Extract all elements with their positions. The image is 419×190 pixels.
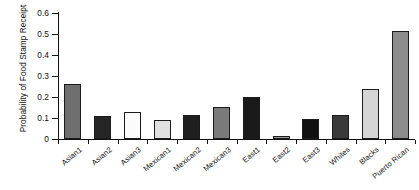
bar bbox=[183, 115, 200, 139]
x-axis-tick-label: East1 bbox=[241, 145, 262, 165]
x-axis-tick-label: Blacks bbox=[358, 145, 381, 167]
x-axis-tick bbox=[385, 140, 386, 144]
bar bbox=[332, 115, 349, 139]
x-axis-tick bbox=[118, 140, 119, 144]
y-axis-tick-label: 0.6 bbox=[37, 8, 49, 18]
bars-layer bbox=[58, 13, 415, 139]
bar bbox=[213, 107, 230, 139]
bar bbox=[124, 112, 141, 139]
x-axis-tick-label: Mexican2 bbox=[171, 145, 202, 173]
x-axis-tick bbox=[296, 140, 297, 144]
y-axis-title: Probability of Food Stamp Receipt bbox=[19, 0, 28, 144]
bar bbox=[64, 84, 81, 139]
y-axis-tick-label: 0.2 bbox=[37, 92, 49, 102]
x-axis-tick-label: Mexican1 bbox=[142, 145, 173, 173]
x-axis-tick-label: East2 bbox=[271, 145, 292, 165]
x-axis-tick bbox=[58, 140, 59, 144]
bar-chart-figure: Probability of Food Stamp Receipt 00.10.… bbox=[0, 0, 419, 190]
x-axis-tick-label: Whites bbox=[327, 145, 351, 167]
x-axis-tick-label: Asian2 bbox=[89, 145, 113, 167]
x-axis-tick-label: Asian3 bbox=[119, 145, 143, 167]
bar bbox=[94, 116, 111, 139]
y-axis-tick-label: 0.4 bbox=[37, 50, 49, 60]
y-axis-tick-label: 0.3 bbox=[37, 71, 49, 81]
x-axis-tick bbox=[88, 140, 89, 144]
x-axis-tick bbox=[177, 140, 178, 144]
bar bbox=[243, 97, 260, 139]
x-axis-tick bbox=[415, 140, 416, 144]
y-axis-tick-label: 0.5 bbox=[37, 29, 49, 39]
bar bbox=[392, 31, 409, 139]
bar bbox=[273, 136, 290, 139]
bar bbox=[302, 119, 319, 139]
x-axis-tick bbox=[266, 140, 267, 144]
y-axis-tick-label: 0.1 bbox=[37, 113, 49, 123]
x-axis-tick bbox=[356, 140, 357, 144]
bar bbox=[154, 120, 171, 139]
x-axis-tick bbox=[147, 140, 148, 144]
x-axis-tick bbox=[237, 140, 238, 144]
x-axis-tick bbox=[207, 140, 208, 144]
y-axis-tick-label: 0 bbox=[44, 134, 49, 144]
x-axis-tick-label: Asian1 bbox=[60, 145, 84, 167]
x-axis-tick-label: Mexican3 bbox=[201, 145, 232, 173]
bar bbox=[362, 89, 379, 139]
x-axis-tick bbox=[326, 140, 327, 144]
x-axis-tick-label: East3 bbox=[301, 145, 322, 165]
